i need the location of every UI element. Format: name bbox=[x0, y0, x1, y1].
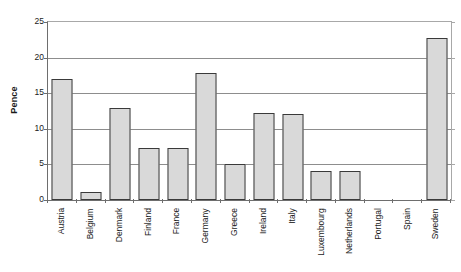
x-axis-label-text: Netherlands bbox=[344, 208, 354, 254]
bar[interactable] bbox=[426, 38, 447, 200]
x-axis-label: Sweden bbox=[421, 203, 450, 272]
x-tick-mark bbox=[450, 199, 451, 203]
bar-slot bbox=[106, 22, 135, 200]
bars-layer bbox=[48, 22, 451, 200]
x-axis-label: Italy bbox=[277, 203, 306, 272]
bar-slot bbox=[336, 22, 365, 200]
bar[interactable] bbox=[225, 164, 246, 200]
y-tick-label: 0 bbox=[39, 194, 44, 204]
x-axis-label-text: Ireland bbox=[258, 208, 268, 234]
x-axis-label-text: Spain bbox=[402, 208, 412, 230]
y-tick-label: 25 bbox=[35, 16, 44, 26]
y-tick-mark-right bbox=[451, 129, 455, 130]
x-axis-label: Austria bbox=[47, 203, 76, 272]
x-axis-label: Finland bbox=[133, 203, 162, 272]
x-axis-label-text: Sweden bbox=[431, 208, 441, 239]
x-axis-label-text: Portugal bbox=[373, 208, 383, 240]
x-axis-label: Greece bbox=[220, 203, 249, 272]
y-tick-mark-right bbox=[451, 200, 455, 201]
x-axis-labels: AustriaBelgiumDenmarkFinlandFranceGerman… bbox=[47, 203, 450, 272]
x-axis-label-text: Greece bbox=[229, 208, 239, 236]
bar[interactable] bbox=[311, 171, 332, 200]
bar-slot bbox=[307, 22, 336, 200]
x-axis-label: Denmark bbox=[105, 203, 134, 272]
y-axis-tick-labels: 0510152025 bbox=[24, 21, 44, 199]
x-axis-label: France bbox=[162, 203, 191, 272]
x-axis-label: Portugal bbox=[364, 203, 393, 272]
y-tick-label: 20 bbox=[35, 52, 44, 62]
bar-slot bbox=[393, 22, 422, 200]
bar[interactable] bbox=[340, 171, 361, 200]
bar-slot bbox=[192, 22, 221, 200]
x-axis-label-text: Germany bbox=[200, 208, 210, 243]
bar-slot bbox=[77, 22, 106, 200]
bar-slot bbox=[134, 22, 163, 200]
bar-slot bbox=[163, 22, 192, 200]
x-axis-label: Netherlands bbox=[335, 203, 364, 272]
bar[interactable] bbox=[196, 73, 217, 200]
bar-slot bbox=[365, 22, 394, 200]
bar[interactable] bbox=[138, 148, 159, 200]
y-tick-mark-right bbox=[451, 164, 455, 165]
x-axis-label: Luxembourg bbox=[306, 203, 335, 272]
x-axis-label-text: Denmark bbox=[114, 208, 124, 242]
x-axis-label-text: Luxembourg bbox=[315, 208, 325, 255]
plot-area bbox=[47, 21, 452, 201]
y-tick-label: 10 bbox=[35, 123, 44, 133]
y-axis-title-text: Pence bbox=[9, 86, 19, 114]
bar-slot bbox=[422, 22, 451, 200]
bar[interactable] bbox=[253, 113, 274, 200]
bar-slot bbox=[278, 22, 307, 200]
bar-chart: Pence 0510152025 AustriaBelgiumDenmarkFi… bbox=[0, 0, 461, 272]
x-axis-label: Ireland bbox=[249, 203, 278, 272]
x-axis-label: Spain bbox=[392, 203, 421, 272]
y-tick-mark-right bbox=[451, 22, 455, 23]
y-tick-mark-right bbox=[451, 93, 455, 94]
y-tick-label: 15 bbox=[35, 87, 44, 97]
bar-slot bbox=[221, 22, 250, 200]
x-axis-label: Germany bbox=[191, 203, 220, 272]
x-axis-label: Belgium bbox=[76, 203, 105, 272]
bar[interactable] bbox=[109, 108, 130, 200]
x-axis-label-text: Austria bbox=[56, 208, 66, 234]
x-axis-label-text: Finland bbox=[143, 208, 153, 236]
x-axis-label-text: France bbox=[172, 208, 182, 234]
bar-slot bbox=[48, 22, 77, 200]
bar[interactable] bbox=[52, 79, 73, 200]
x-axis-label-text: Italy bbox=[287, 208, 297, 224]
bar[interactable] bbox=[167, 148, 188, 200]
bar[interactable] bbox=[282, 114, 303, 200]
x-axis-label-text: Belgium bbox=[85, 208, 95, 239]
y-tick-mark-right bbox=[451, 58, 455, 59]
y-tick-label: 5 bbox=[39, 158, 44, 168]
bar-slot bbox=[250, 22, 279, 200]
